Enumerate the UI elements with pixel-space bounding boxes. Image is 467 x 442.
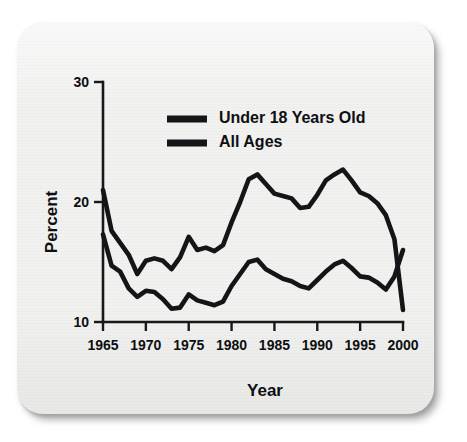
- x-axis-tick-labels: 19651970197519801985199019952000: [87, 337, 418, 353]
- x-tick-label: 2000: [387, 337, 418, 353]
- y-tick-label: 10: [73, 314, 89, 330]
- y-axis-tick-labels: 102030: [73, 74, 89, 330]
- x-axis-title: Year: [247, 381, 283, 400]
- data-series-group: [103, 170, 403, 310]
- x-tick-label: 1985: [259, 337, 290, 353]
- chart-legend: Under 18 Years OldAll Ages: [167, 109, 365, 150]
- legend-item: All Ages: [167, 133, 283, 150]
- x-tick-label: 1990: [302, 337, 333, 353]
- y-tick-label: 30: [73, 74, 89, 90]
- x-tick-label: 1980: [216, 337, 247, 353]
- x-axis-ticks: [103, 322, 403, 331]
- line-chart: 102030 19651970197519801985199019952000 …: [17, 22, 434, 414]
- x-tick-label: 1975: [173, 337, 204, 353]
- chart-card: 102030 19651970197519801985199019952000 …: [17, 22, 434, 414]
- y-axis-title: Percent: [42, 190, 61, 253]
- x-tick-label: 1995: [345, 337, 376, 353]
- figure-root: 102030 19651970197519801985199019952000 …: [0, 0, 467, 442]
- y-axis-ticks: [94, 82, 103, 322]
- series-line-all-ages: [103, 234, 403, 308]
- y-tick-label: 20: [73, 194, 89, 210]
- x-tick-label: 1970: [130, 337, 161, 353]
- legend-item: Under 18 Years Old: [167, 109, 365, 126]
- x-tick-label: 1965: [87, 337, 118, 353]
- legend-label-2: All Ages: [219, 133, 283, 150]
- legend-label-1: Under 18 Years Old: [219, 109, 365, 126]
